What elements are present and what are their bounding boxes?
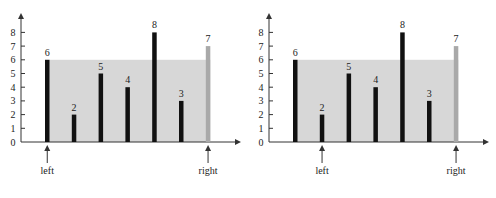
bar-value-label: 6 bbox=[293, 47, 298, 58]
bar-value-label: 3 bbox=[427, 88, 432, 99]
x-axis-arrow-icon bbox=[235, 139, 241, 145]
bar-chart-2: 0123456786254837leftright bbox=[248, 0, 496, 198]
bar-value-label: 4 bbox=[373, 74, 378, 85]
y-tick-label: 3 bbox=[259, 95, 264, 106]
y-axis-arrow-icon bbox=[266, 13, 272, 19]
bar-value-label: 2 bbox=[72, 102, 77, 113]
y-tick-label: 4 bbox=[259, 82, 264, 93]
right-pointer-label: right bbox=[199, 165, 218, 176]
x-axis-arrow-icon bbox=[483, 139, 489, 145]
bar-chart-1: 0123456786254837leftright bbox=[0, 0, 248, 198]
y-tick-label: 2 bbox=[259, 109, 264, 120]
bar bbox=[320, 115, 325, 142]
y-tick-label: 4 bbox=[11, 82, 16, 93]
bar bbox=[45, 60, 50, 142]
y-tick-label: 5 bbox=[11, 68, 16, 79]
bar bbox=[152, 32, 157, 142]
bar-value-label: 6 bbox=[45, 47, 50, 58]
y-tick-label: 8 bbox=[259, 27, 264, 38]
y-tick-label: 0 bbox=[259, 137, 264, 148]
y-tick-label: 3 bbox=[11, 95, 16, 106]
bar bbox=[427, 101, 432, 142]
y-tick-label: 7 bbox=[259, 41, 264, 52]
y-tick-label: 8 bbox=[11, 27, 16, 38]
right-pointer-label: right bbox=[447, 165, 466, 176]
y-tick-label: 1 bbox=[11, 123, 16, 134]
bar-value-label: 8 bbox=[400, 19, 405, 30]
diagram-panel-2: 0123456786254837leftright bbox=[248, 0, 496, 198]
highlighted-bar bbox=[454, 46, 459, 142]
highlighted-bar bbox=[206, 46, 211, 142]
y-tick-label: 5 bbox=[259, 68, 264, 79]
bar-value-label: 8 bbox=[152, 19, 157, 30]
bar-value-label: 7 bbox=[206, 33, 211, 44]
y-tick-label: 1 bbox=[259, 123, 264, 134]
bar-value-label: 4 bbox=[125, 74, 130, 85]
bar bbox=[347, 74, 352, 143]
bar bbox=[72, 115, 77, 142]
left-pointer-label: left bbox=[315, 165, 329, 176]
diagram-panel-1: 0123456786254837leftright bbox=[0, 0, 248, 198]
bar-value-label: 5 bbox=[98, 61, 103, 72]
bar bbox=[400, 32, 405, 142]
bar-value-label: 7 bbox=[454, 33, 459, 44]
y-tick-label: 6 bbox=[259, 54, 264, 65]
bar-value-label: 5 bbox=[346, 61, 351, 72]
bar-value-label: 2 bbox=[320, 102, 325, 113]
bar-value-label: 3 bbox=[179, 88, 184, 99]
bar bbox=[179, 101, 184, 142]
y-tick-label: 0 bbox=[11, 137, 16, 148]
y-tick-label: 7 bbox=[11, 41, 16, 52]
bar bbox=[373, 87, 378, 142]
y-axis-arrow-icon bbox=[18, 13, 24, 19]
bar bbox=[293, 60, 298, 142]
left-pointer-label: left bbox=[41, 165, 55, 176]
bar bbox=[125, 87, 129, 142]
y-tick-label: 2 bbox=[11, 109, 16, 120]
bar bbox=[99, 74, 104, 143]
y-tick-label: 6 bbox=[11, 54, 16, 65]
